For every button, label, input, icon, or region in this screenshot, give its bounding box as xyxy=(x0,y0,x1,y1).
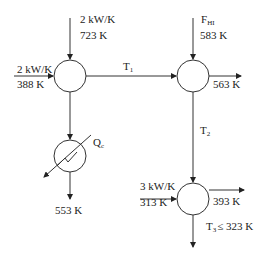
ex3-inlet-temp: 313 K xyxy=(140,196,167,208)
cooler-duty-label: Qc xyxy=(93,136,104,150)
heat-exchanger-network-diagram: 2 kW/K 723 K 2 kW/K 388 K T1 FHI 583 K 5… xyxy=(0,0,265,254)
mixer-2: FHI 583 K 563 K xyxy=(177,13,241,92)
mixer-1-node xyxy=(54,60,86,92)
mixer1-top-temp: 723 K xyxy=(80,29,107,41)
ex3-flow: 3 kW/K xyxy=(140,180,175,192)
cooler-node xyxy=(54,140,86,172)
fhi-label: FHI xyxy=(201,13,215,27)
exchanger-3-node xyxy=(177,183,209,215)
mixer-1: 2 kW/K 723 K 2 kW/K 388 K xyxy=(14,13,115,92)
t3-constraint: T3≤ 323 K xyxy=(206,220,253,234)
exchanger-3: 3 kW/K 313 K 393 K T3≤ 323 K xyxy=(140,180,253,247)
t1-label: T1 xyxy=(123,60,134,74)
fhi-temp: 583 K xyxy=(200,29,227,41)
mixer1-top-flow: 2 kW/K xyxy=(80,13,115,25)
mixer1-left-flow: 2 kW/K xyxy=(17,63,52,75)
mixer2-outlet-temp: 563 K xyxy=(213,78,240,90)
mixer-2-node xyxy=(177,60,209,92)
cooler-outlet-temp: 553 K xyxy=(55,204,82,216)
t2-label: T2 xyxy=(200,124,211,138)
mixer1-left-temp: 388 K xyxy=(17,78,44,90)
ex3-outlet-temp: 393 K xyxy=(213,195,240,207)
cooler: Qc 553 K xyxy=(44,92,104,216)
